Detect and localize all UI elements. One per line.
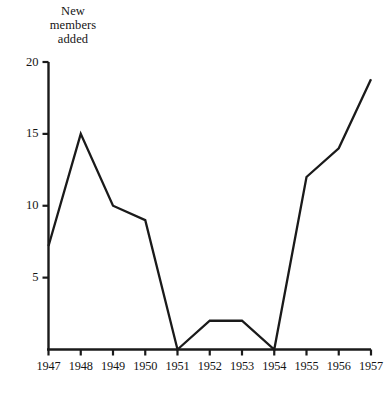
x-axis-tick-label: 1955 [290,360,324,372]
x-axis-tick-label: 1950 [128,360,162,372]
plot-area [0,0,385,393]
x-axis-tick-label: 1957 [354,360,385,372]
x-axis-tick-label: 1947 [32,360,66,372]
y-axis-tick-label: 10 [13,199,39,212]
x-axis-tick-label: 1953 [225,360,259,372]
x-axis-tick-label: 1952 [193,360,227,372]
data-series-line [49,79,372,349]
x-axis-tick-label: 1951 [161,360,195,372]
y-axis-tick-label: 5 [13,271,39,284]
x-axis-tick-label: 1954 [257,360,291,372]
y-axis-tick-label: 15 [13,127,39,140]
line-chart: Newmembersadded 5101520 1947194819491950… [0,0,385,393]
x-axis-tick-label: 1956 [322,360,356,372]
x-axis-tick-label: 1948 [64,360,98,372]
y-axis-tick-label: 20 [13,56,39,69]
x-axis-tick-label: 1949 [96,360,130,372]
